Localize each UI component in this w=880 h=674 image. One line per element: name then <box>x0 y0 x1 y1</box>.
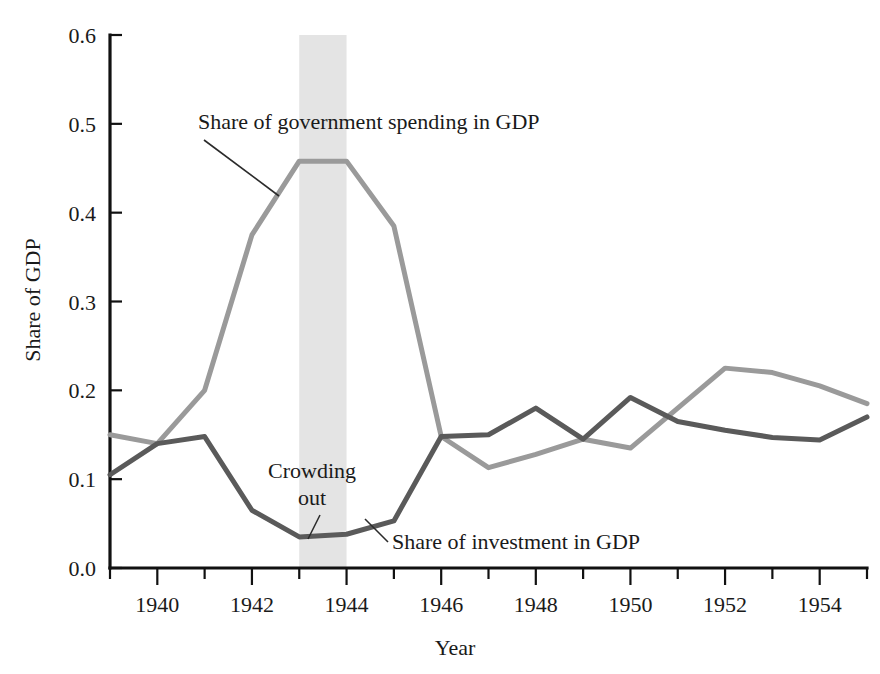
chart-canvas: 0.00.10.20.30.40.50.6 194019421944194619… <box>0 0 880 674</box>
x-tick-label: 1944 <box>325 592 369 617</box>
annotation-investment-label: Share of investment in GDP <box>392 529 640 554</box>
x-axis-title: Year <box>435 635 476 660</box>
x-tick-label: 1954 <box>798 592 842 617</box>
chart-background <box>0 0 880 674</box>
y-tick-label: 0.2 <box>69 378 97 403</box>
y-tick-label: 0.4 <box>69 201 97 226</box>
y-tick-label: 0.0 <box>69 556 97 581</box>
x-tick-label: 1952 <box>703 592 747 617</box>
x-tick-label: 1942 <box>230 592 274 617</box>
y-axis-title: Share of GDP <box>20 238 45 361</box>
y-tick-label: 0.1 <box>69 467 97 492</box>
annotation-crowding-label-line2: out <box>298 485 326 510</box>
y-tick-label: 0.5 <box>69 112 97 137</box>
annotation-crowding-label-line1: Crowding <box>268 458 356 483</box>
y-tick-label: 0.3 <box>69 290 97 315</box>
x-tick-label: 1940 <box>135 592 179 617</box>
x-tick-label: 1948 <box>514 592 558 617</box>
x-tick-label: 1946 <box>419 592 463 617</box>
x-tick-label: 1950 <box>608 592 652 617</box>
y-tick-label: 0.6 <box>69 23 97 48</box>
chart-figure: 0.00.10.20.30.40.50.6 194019421944194619… <box>0 0 880 674</box>
annotation-gov-label: Share of government spending in GDP <box>198 109 540 134</box>
